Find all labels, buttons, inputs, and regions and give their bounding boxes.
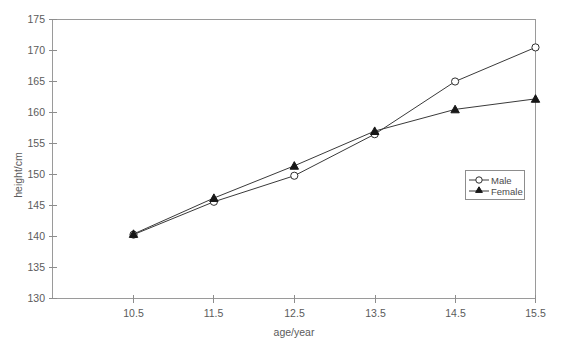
x-tick-label-10-5: 10.5 <box>123 307 144 319</box>
legend-label-male: Male <box>491 175 512 186</box>
open-circle-icon <box>476 177 482 183</box>
x-tick-label-11-5: 11.5 <box>204 307 224 319</box>
y-tick-label-135: 135 <box>27 261 45 273</box>
plot-frame <box>53 20 536 299</box>
line-chart: 130 135 140 145 150 155 160 165 170 175 … <box>0 0 561 345</box>
x-tick-label-15-5: 15.5 <box>525 307 546 319</box>
data-point-marker-filled-triangle <box>210 194 218 202</box>
y-tick-label-140: 140 <box>27 230 45 242</box>
legend-label-female: Female <box>491 186 523 197</box>
chart-container: 130 135 140 145 150 155 160 165 170 175 … <box>0 0 561 345</box>
x-tick-label-13-5: 13.5 <box>365 307 386 319</box>
chart-legend[interactable]: Male Female <box>466 171 525 200</box>
y-tick-label-150: 150 <box>27 168 45 180</box>
y-tick-label-165: 165 <box>27 75 45 87</box>
y-tick-label-170: 170 <box>27 44 45 56</box>
x-axis-title: age/year <box>274 326 315 338</box>
data-point-marker-open-circle <box>452 78 459 85</box>
data-point-marker-filled-triangle <box>290 162 298 170</box>
x-tick-label-14-5: 14.5 <box>445 307 466 319</box>
y-tick-label-130: 130 <box>27 292 45 304</box>
series-female <box>129 95 539 238</box>
y-tick-label-175: 175 <box>27 13 45 25</box>
data-point-marker-filled-triangle <box>531 95 539 103</box>
x-tick-label-12-5: 12.5 <box>284 307 305 319</box>
data-point-marker-open-circle <box>532 44 539 51</box>
series-layer <box>129 44 539 238</box>
series-line-female <box>134 99 536 234</box>
series-male <box>130 44 539 238</box>
y-tick-label-145: 145 <box>27 199 45 211</box>
data-point-marker-open-circle <box>291 172 298 179</box>
y-tick-label-155: 155 <box>27 137 45 149</box>
y-axis-title: height/cm <box>12 152 24 198</box>
y-tick-label-160: 160 <box>27 106 45 118</box>
